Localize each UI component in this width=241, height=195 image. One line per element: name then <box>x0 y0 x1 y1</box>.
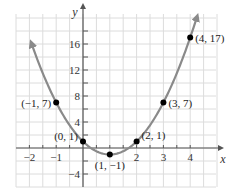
point-label: (−1, 7) <box>21 97 51 110</box>
y-tick-label: 4 <box>75 116 81 128</box>
data-point <box>53 100 59 106</box>
data-point <box>107 152 113 158</box>
y-tick-label: 16 <box>69 38 81 50</box>
x-tick-label: −2 <box>24 151 36 163</box>
y-tick-label: 8 <box>75 90 81 102</box>
point-label: (2, 1) <box>142 129 166 142</box>
parabola-chart: xy −2−1234161284−4 (−1, 7)(0, 1)(1, −1)(… <box>0 0 241 195</box>
point-label: (3, 7) <box>168 97 192 110</box>
point-label: (0, 1) <box>54 130 78 143</box>
point-label: (1, −1) <box>95 159 125 172</box>
x-tick-label: 2 <box>134 151 140 163</box>
data-point <box>160 100 166 106</box>
y-axis-label: y <box>71 5 78 19</box>
x-tick-label: −1 <box>50 151 62 163</box>
x-tick-label: 4 <box>187 151 193 163</box>
data-point <box>80 139 86 145</box>
point-label: (4, 17) <box>195 32 225 45</box>
y-tick-label: 12 <box>69 64 80 76</box>
data-point <box>134 139 140 145</box>
data-point <box>187 35 193 41</box>
y-tick-label: −4 <box>68 168 80 180</box>
plot-area: xy −2−1234161284−4 (−1, 7)(0, 1)(1, −1)(… <box>0 0 241 195</box>
x-axis-label: x <box>219 152 226 166</box>
x-tick-label: 3 <box>161 151 167 163</box>
